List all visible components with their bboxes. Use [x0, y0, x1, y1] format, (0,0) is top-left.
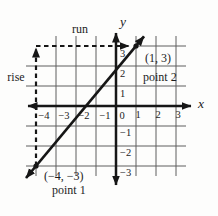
graph-svg: y x run rise (1, 3) point 2 (−4, −3) poi… — [0, 0, 218, 216]
point-2-marker — [133, 43, 138, 48]
point-1-name-label: point 1 — [52, 183, 86, 197]
x-tick-label-neg3: −3 — [58, 110, 69, 121]
y-tick-label-neg1: −1 — [120, 127, 131, 138]
point-1-marker — [33, 163, 38, 168]
x-tick-label-neg2: −2 — [78, 110, 89, 121]
y-tick-label-neg3: −3 — [120, 167, 131, 178]
point-2-coords-label: (1, 3) — [145, 51, 171, 65]
x-tick-label-neg4: −4 — [38, 110, 50, 121]
y-tick-label-neg2: −2 — [120, 147, 131, 158]
x-tick-label-neg1: −1 — [99, 110, 110, 121]
y-tick-label-2: 2 — [120, 68, 125, 79]
coordinate-plane-figure: y x run rise (1, 3) point 2 (−4, −3) poi… — [0, 0, 218, 216]
rise-label: rise — [7, 70, 24, 84]
x-axis-label: x — [197, 96, 204, 111]
point-2-name-label: point 2 — [143, 70, 177, 84]
x-tick-label-2: 2 — [155, 109, 160, 120]
run-label: run — [72, 22, 88, 36]
x-tick-label-1: 1 — [135, 109, 140, 120]
x-tick-labels: −4 −3 −2 −1 0 1 2 3 — [38, 109, 180, 121]
y-tick-label-1: 1 — [120, 88, 125, 99]
x-tick-label-0: 0 — [119, 110, 124, 121]
point-1-coords-label: (−4, −3) — [44, 169, 84, 183]
y-tick-label-3: 3 — [120, 48, 125, 59]
x-tick-label-3: 3 — [175, 109, 180, 120]
y-axis-label: y — [118, 14, 126, 29]
